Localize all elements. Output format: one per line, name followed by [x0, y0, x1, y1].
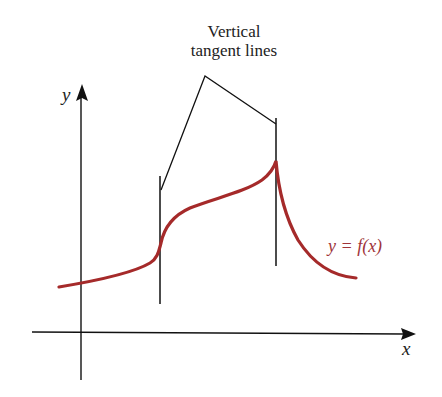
x-axis-label: x [402, 338, 410, 360]
annotation-leader-lines [161, 76, 276, 190]
annotation-line-1: Vertical [150, 22, 318, 41]
vertical-tangent-annotation: Vertical tangent lines [150, 22, 318, 60]
y-axis-arrow-icon [76, 84, 88, 101]
y-axis-label: y [62, 84, 70, 106]
curve-label: y = f(x) [328, 236, 382, 257]
x-axis [32, 332, 404, 334]
annotation-line-2: tangent lines [150, 41, 318, 60]
function-curve [59, 161, 356, 287]
